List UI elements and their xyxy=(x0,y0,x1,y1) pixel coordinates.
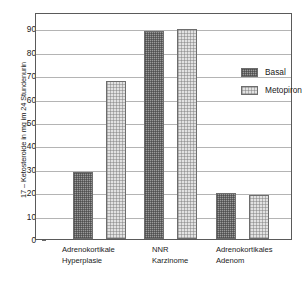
bar-metopiron-2 xyxy=(177,29,197,239)
chart-legend: BasalMetopiron xyxy=(241,65,305,101)
category-label-1: AdrenokortikaleHyperplasie xyxy=(62,245,115,266)
legend-swatch-basal xyxy=(241,68,258,77)
bar-metopiron-3 xyxy=(249,195,269,239)
category-label-line: Adrenokortikale xyxy=(62,245,115,256)
category-label-line: Karzinome xyxy=(152,256,188,267)
y-axis-tick-label: 20 xyxy=(12,189,36,197)
category-label-line: NNR xyxy=(152,245,188,256)
gridline xyxy=(36,147,291,148)
y-axis-tick-label: 40 xyxy=(12,142,36,150)
category-label-2: NNRKarzinome xyxy=(152,245,188,266)
x-axis-category-labels: AdrenokortikaleHyperplasieNNRKarzinomeAd… xyxy=(0,245,305,275)
gridline xyxy=(36,54,291,55)
gridline xyxy=(36,30,291,31)
category-label-3: AdrenokortikalesAdenom xyxy=(216,245,273,266)
y-axis-tick-label: 10 xyxy=(12,213,36,221)
y-axis-tick-label: 80 xyxy=(12,49,36,57)
category-label-line: Adenom xyxy=(216,256,273,267)
legend-item-metopiron: Metopiron xyxy=(241,83,305,97)
category-label-line: Hyperplasie xyxy=(62,256,115,267)
bar-basal-1 xyxy=(73,172,93,239)
y-axis-tick-label: 30 xyxy=(12,166,36,174)
y-axis-tick-label: 0 xyxy=(12,236,36,244)
legend-label: Metopiron xyxy=(265,86,302,95)
bar-chart: 17 – Ketosteroide in mg im 24 Stundenuri… xyxy=(0,0,305,283)
bar-metopiron-1 xyxy=(106,81,126,239)
y-axis-tick-label: 90 xyxy=(12,25,36,33)
y-axis-tick-mark xyxy=(42,240,46,241)
gridline xyxy=(36,124,291,125)
bar-basal-3 xyxy=(216,193,236,239)
y-axis-tick-label: 60 xyxy=(12,96,36,104)
y-axis-tick-label: 50 xyxy=(12,119,36,127)
bar-basal-2 xyxy=(144,31,164,239)
y-axis-tick-label: 70 xyxy=(12,72,36,80)
legend-item-basal: Basal xyxy=(241,65,305,79)
y-axis-tick-labels: 0102030405060708090 xyxy=(12,0,36,283)
legend-label: Basal xyxy=(265,68,286,77)
plot-area: BasalMetopiron xyxy=(35,13,292,240)
category-label-line: Adrenokortikales xyxy=(216,245,273,256)
legend-swatch-metopiron xyxy=(241,86,258,95)
